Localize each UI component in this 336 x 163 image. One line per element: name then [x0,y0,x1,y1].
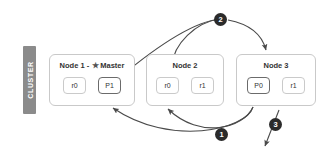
cluster-diagram: CLUSTER Node 1 - ★Master r0 P1 Node 2 r0… [0,0,336,163]
shard-node1-p1[interactable]: P1 [98,77,121,94]
master-star-icon: ★ [91,61,100,70]
cluster-bar: CLUSTER [23,46,36,114]
shard-node2-r0[interactable]: r0 [156,77,179,94]
arrow-node3-to-node2 [168,107,253,128]
shard-node1-r0[interactable]: r0 [63,77,86,94]
node-box-node-2[interactable]: Node 2 r0 r1 [146,54,224,106]
shard-node3-p0[interactable]: P0 [247,77,270,94]
node-box-node-1[interactable]: Node 1 - ★Master r0 P1 [49,54,135,106]
step-marker-1: 1 [215,128,228,141]
step-marker-2: 2 [214,13,227,26]
shard-row-node-1: r0 P1 [50,77,134,94]
arrow-node3-to-node1 [113,107,253,131]
arrow-marker2-to-node3 [228,20,266,50]
step-marker-3: 3 [269,118,282,131]
cluster-label: CLUSTER [26,61,33,98]
node-role-label: Master [100,61,124,70]
node-title-node-2: Node 2 [147,61,223,70]
shard-node3-r1[interactable]: r1 [282,77,305,94]
node-title-text: Node 1 - [60,61,92,70]
node-title-text: Node 2 [172,61,197,70]
node-title-node-3: Node 3 [237,61,315,70]
node-box-node-3[interactable]: Node 3 P0 r1 [236,54,316,106]
node-title-node-1: Node 1 - ★Master [50,61,134,70]
shard-row-node-2: r0 r1 [147,77,223,94]
shard-node2-r1[interactable]: r1 [191,77,214,94]
shard-row-node-3: P0 r1 [237,77,315,94]
node-title-text: Node 3 [263,61,288,70]
